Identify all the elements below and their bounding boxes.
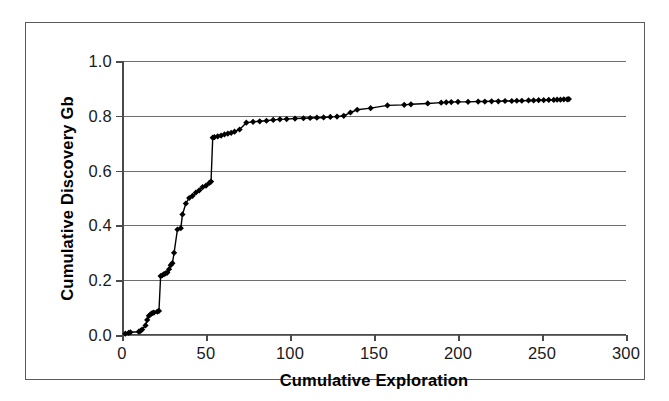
data-point-marker [495, 98, 501, 104]
data-point-marker [519, 98, 525, 104]
data-point-marker [438, 100, 444, 106]
data-point-marker [531, 97, 537, 103]
data-point-marker [314, 115, 320, 121]
x-tick-label: 250 [528, 344, 556, 363]
series-markers [122, 96, 572, 337]
x-tick-label: 50 [197, 344, 216, 363]
data-point-marker [455, 99, 461, 105]
data-point-marker [509, 98, 515, 104]
x-tick-label: 0 [117, 344, 126, 363]
y-tick-label: 1.0 [88, 52, 112, 71]
y-tick-label: 0.2 [88, 271, 112, 290]
series-line [125, 99, 569, 334]
x-tick-mark [626, 335, 628, 341]
data-point-marker [448, 99, 454, 105]
y-tick-label: 0.8 [88, 106, 112, 125]
data-point-marker [327, 114, 333, 120]
data-point-marker [292, 115, 298, 121]
x-tick-label: 150 [360, 344, 388, 363]
data-series-svg [122, 61, 626, 335]
x-tick-label: 100 [276, 344, 304, 363]
data-point-marker [334, 114, 340, 120]
data-point-marker [482, 98, 488, 104]
data-point-marker [475, 98, 481, 104]
data-point-marker [179, 211, 185, 217]
x-tick-mark [458, 335, 460, 341]
data-point-marker [489, 98, 495, 104]
y-tick-label: 0.0 [88, 326, 112, 345]
data-point-marker [465, 99, 471, 105]
data-point-marker [347, 109, 353, 115]
plot-area: 0.00.20.40.60.81.0 050100150200250300 [122, 61, 626, 335]
y-axis-title: Cumulative Discovery Gb [54, 61, 80, 335]
data-point-marker [502, 98, 508, 104]
x-tick-mark [542, 335, 544, 341]
chart-figure: Cumulative Discovery Gb Cumulative Explo… [0, 0, 669, 401]
data-point-marker [368, 105, 374, 111]
y-tick-label: 0.6 [88, 161, 112, 180]
data-point-marker [257, 118, 263, 124]
data-point-marker [341, 113, 347, 119]
data-point-marker [354, 107, 360, 113]
data-point-marker [250, 119, 256, 125]
x-axis-title: Cumulative Exploration [122, 371, 626, 390]
figure-frame: Cumulative Discovery Gb Cumulative Explo… [25, 22, 645, 380]
x-tick-mark [206, 335, 208, 341]
data-point-marker [284, 116, 290, 122]
data-point-marker [171, 250, 177, 256]
data-point-marker [300, 115, 306, 121]
data-point-marker [277, 116, 283, 122]
data-point-marker [307, 115, 313, 121]
data-point-marker [270, 117, 276, 123]
x-tick-mark [290, 335, 292, 341]
data-point-marker [183, 200, 189, 206]
data-point-marker [541, 97, 547, 103]
y-axis-title-text: Cumulative Discovery Gb [58, 96, 77, 301]
x-tick-label: 200 [444, 344, 472, 363]
data-point-marker [443, 99, 449, 105]
x-tick-label: 300 [612, 344, 640, 363]
data-point-marker [425, 100, 431, 106]
data-point-marker [401, 102, 407, 108]
data-point-marker [263, 118, 269, 124]
y-tick-label: 0.4 [88, 216, 112, 235]
data-point-marker [321, 114, 327, 120]
x-tick-mark [122, 335, 124, 341]
data-point-marker [384, 102, 390, 108]
x-tick-mark [374, 335, 376, 341]
data-point-marker [408, 101, 414, 107]
